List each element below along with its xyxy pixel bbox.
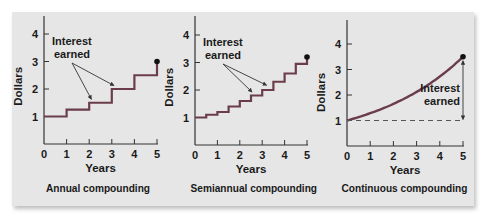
y-tick-label: 2 bbox=[32, 83, 38, 95]
x-tick-label: 5 bbox=[154, 148, 160, 160]
x-tick-label: 3 bbox=[259, 149, 265, 161]
x-tick-label: 1 bbox=[367, 150, 373, 162]
x-tick-label: 2 bbox=[86, 148, 92, 160]
x-tick-label: 3 bbox=[414, 150, 420, 162]
caption-semiannual: Semiannual compounding bbox=[191, 182, 316, 194]
y-tick-label: 2 bbox=[183, 84, 189, 96]
x-tick-label: 2 bbox=[237, 149, 243, 161]
x-tick-label: 5 bbox=[304, 149, 310, 161]
y-tick-label: 3 bbox=[335, 64, 341, 76]
balance-step-line bbox=[195, 57, 307, 118]
annotation-arrow bbox=[223, 64, 252, 92]
annotation-line-1: Interest bbox=[52, 35, 92, 47]
y-tick-label: 1 bbox=[32, 111, 38, 123]
x-tick-label: 0 bbox=[41, 148, 47, 160]
compounding-figure: 0123451234YearsDollarsInterestearned0123… bbox=[0, 0, 487, 218]
annotation-arrow bbox=[223, 64, 267, 85]
x-tick-label: 0 bbox=[344, 150, 350, 162]
y-tick-label: 1 bbox=[183, 112, 189, 124]
annotation-line-2: earned bbox=[205, 49, 241, 61]
y-tick-label: 1 bbox=[335, 115, 341, 127]
x-tick-label: 3 bbox=[109, 148, 115, 160]
caption-continuous: Continuous compounding bbox=[342, 182, 467, 194]
x-axis-label: Years bbox=[85, 162, 116, 174]
x-tick-label: 4 bbox=[437, 150, 444, 162]
y-axis-label: Dollars bbox=[163, 68, 175, 107]
y-tick-label: 4 bbox=[183, 29, 190, 41]
annotation-line-1: Interest bbox=[203, 36, 243, 48]
y-tick-label: 4 bbox=[335, 38, 342, 50]
annotation-line-2: earned bbox=[424, 95, 460, 107]
annotation-line-1: Interest bbox=[420, 82, 460, 94]
caption-annual: Annual compounding bbox=[45, 182, 151, 194]
balance-step-line bbox=[44, 62, 157, 117]
y-axis-label: Dollars bbox=[315, 73, 327, 112]
x-axis-label: Years bbox=[236, 163, 267, 175]
y-tick-label: 3 bbox=[32, 56, 38, 68]
annotation-line-2: earned bbox=[54, 48, 90, 60]
x-tick-label: 2 bbox=[390, 150, 396, 162]
x-tick-label: 4 bbox=[282, 149, 289, 161]
x-axis-label: Years bbox=[390, 164, 421, 176]
endpoint-dot bbox=[154, 59, 160, 65]
endpoint-dot bbox=[460, 54, 466, 60]
endpoint-dot bbox=[304, 54, 310, 60]
y-axis-label: Dollars bbox=[12, 67, 24, 106]
y-tick-label: 4 bbox=[32, 28, 39, 40]
x-tick-label: 5 bbox=[460, 150, 466, 162]
x-tick-label: 1 bbox=[214, 149, 220, 161]
y-tick-label: 3 bbox=[183, 57, 189, 69]
x-tick-label: 0 bbox=[192, 149, 198, 161]
y-tick-label: 2 bbox=[335, 89, 341, 101]
x-tick-label: 4 bbox=[131, 148, 138, 160]
x-tick-label: 1 bbox=[64, 148, 70, 160]
